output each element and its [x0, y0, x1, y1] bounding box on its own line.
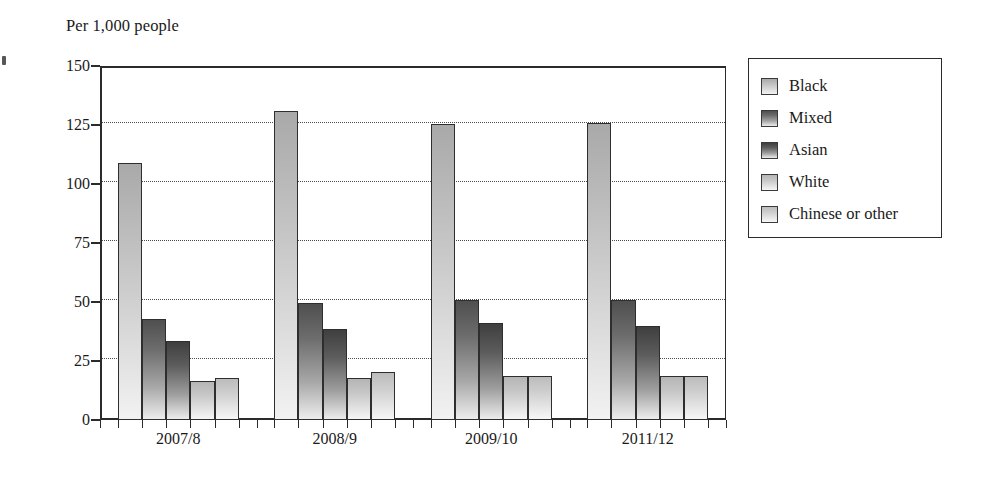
legend-item-white[interactable]: White	[761, 166, 941, 198]
x-tick-mark	[636, 420, 637, 428]
bar-2011-12-white	[660, 376, 684, 420]
x-tick-mark	[587, 420, 588, 428]
legend-swatch-chinese	[761, 206, 778, 223]
x-tick-mark	[479, 420, 480, 428]
bar-2008-9-mixed	[298, 303, 322, 420]
x-tick-mark	[142, 420, 143, 428]
x-tick-mark	[347, 420, 348, 428]
legend-item-asian[interactable]: Asian	[761, 134, 941, 166]
x-tick-mark	[395, 420, 396, 428]
legend-item-label: Mixed	[789, 110, 832, 127]
x-tick-mark	[455, 420, 456, 428]
bar-2009-10-white	[503, 376, 527, 420]
legend-swatch-mixed	[761, 110, 778, 127]
x-tick-mark	[660, 420, 661, 428]
x-tick-mark	[190, 420, 191, 428]
y-tick-mark-75	[91, 242, 100, 244]
x-tick-mark	[528, 420, 529, 428]
bar-2008-9-white	[347, 378, 371, 420]
legend-swatch-white	[761, 174, 778, 191]
bar-2007-8-white	[190, 381, 214, 420]
y-tick-label-25: 25	[74, 352, 90, 370]
bar-2007-8-chinese-or-other	[215, 378, 239, 420]
legend-item-label: Asian	[789, 142, 828, 159]
y-tick-label-75: 75	[74, 234, 90, 252]
y-tick-label-150: 150	[66, 57, 90, 75]
x-tick-mark-group-edge	[257, 420, 258, 428]
grouped-bar-chart: Per 1,000 people 0255075100125150 2007/8…	[0, 0, 990, 481]
legend-item-label: White	[789, 174, 829, 191]
bar-2007-8-mixed	[142, 319, 166, 420]
bar-2007-8-asian	[166, 341, 190, 420]
y-axis-title: Per 1,000 people	[66, 16, 179, 36]
legend-item-black[interactable]: Black	[761, 70, 941, 102]
y-tick-label-50: 50	[74, 293, 90, 311]
y-tick-mark-25	[91, 360, 100, 362]
bar-2009-10-black	[431, 124, 455, 420]
x-tick-mark	[684, 420, 685, 428]
bar-2009-10-mixed	[455, 300, 479, 420]
legend-swatch-asian	[761, 142, 778, 159]
y-tick-mark-100	[91, 183, 100, 185]
x-tick-mark	[552, 420, 553, 428]
x-tick-mark-group-edge	[100, 420, 101, 428]
bar-2011-12-mixed	[611, 300, 635, 420]
bar-2008-9-chinese-or-other	[371, 372, 395, 420]
x-tick-mark	[371, 420, 372, 428]
legend-swatch-black	[761, 78, 778, 95]
y-tick-mark-125	[91, 124, 100, 126]
x-tick-mark	[274, 420, 275, 428]
y-tick-label-125: 125	[66, 116, 90, 134]
x-tick-mark	[215, 420, 216, 428]
x-tick-mark-group-edge	[570, 420, 571, 428]
scan-artifact	[2, 56, 6, 65]
x-tick-mark-group-edge	[413, 420, 414, 428]
bar-2011-12-black	[587, 123, 611, 420]
y-tick-mark-50	[91, 301, 100, 303]
legend: BlackMixedAsianWhiteChinese or other	[748, 58, 942, 238]
x-tick-mark	[166, 420, 167, 428]
y-tick-mark-150	[91, 65, 100, 67]
legend-item-chinese-or-other[interactable]: Chinese or other	[761, 198, 941, 230]
bar-2008-9-asian	[323, 329, 347, 420]
x-tick-mark	[611, 420, 612, 428]
bar-2009-10-asian	[479, 323, 503, 420]
bar-2009-10-chinese-or-other	[528, 376, 552, 420]
x-tick-mark	[298, 420, 299, 428]
y-tick-mark-0	[91, 419, 100, 421]
x-axis-label-2009-10: 2009/10	[465, 430, 517, 448]
legend-item-mixed[interactable]: Mixed	[761, 102, 941, 134]
x-axis-label-2007-8: 2007/8	[156, 430, 200, 448]
y-axis-tick-labels: 0255075100125150	[48, 66, 90, 420]
x-tick-mark	[118, 420, 119, 428]
x-axis-label-2008-9: 2008/9	[313, 430, 357, 448]
bars-layer	[100, 66, 726, 420]
bar-2011-12-asian	[636, 326, 660, 420]
y-tick-label-0: 0	[82, 411, 90, 429]
legend-item-label: Chinese or other	[789, 206, 898, 223]
x-tick-mark	[431, 420, 432, 428]
legend-item-label: Black	[789, 78, 828, 95]
x-tick-mark	[503, 420, 504, 428]
bar-2008-9-black	[274, 111, 298, 420]
x-tick-mark-group-edge	[726, 420, 727, 428]
x-tick-mark	[239, 420, 240, 428]
bar-2007-8-black	[118, 163, 142, 420]
y-tick-label-100: 100	[66, 175, 90, 193]
x-axis-label-2011-12: 2011/12	[622, 430, 674, 448]
x-tick-mark	[708, 420, 709, 428]
bar-2011-12-chinese-or-other	[684, 376, 708, 420]
x-tick-mark	[323, 420, 324, 428]
